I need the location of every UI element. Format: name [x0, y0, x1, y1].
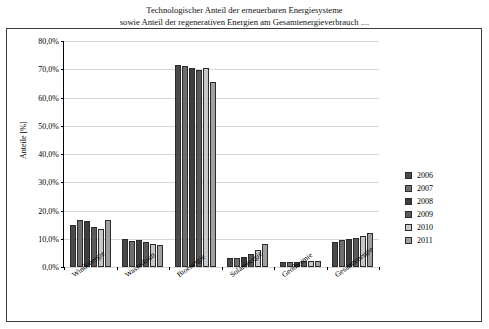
bar — [70, 225, 76, 267]
legend-item: 2008 — [405, 195, 433, 208]
bar — [105, 220, 111, 267]
bar — [182, 66, 188, 267]
bar-group — [117, 41, 170, 267]
y-tick-label: 70,0% — [38, 65, 59, 74]
bar — [122, 239, 128, 267]
x-tick-mark — [117, 267, 118, 270]
legend-item: 2009 — [405, 208, 433, 221]
legend-label: 2007 — [417, 184, 433, 193]
legend-label: 2006 — [417, 171, 433, 180]
legend-label: 2010 — [417, 223, 433, 232]
chart-title: Technologischer Anteil der erneuerbaren … — [0, 4, 489, 28]
x-tick-mark — [327, 267, 328, 270]
x-tick-mark — [64, 267, 65, 270]
legend-swatch — [405, 172, 412, 179]
bar-group — [327, 41, 380, 267]
bar — [203, 68, 209, 267]
legend-swatch — [405, 237, 412, 244]
legend-swatch — [405, 198, 412, 205]
chart-legend: 200620072008200920102011 — [405, 169, 433, 247]
bar-group — [64, 41, 117, 267]
legend-item: 2006 — [405, 169, 433, 182]
bar — [189, 68, 195, 267]
y-tick-label: 10,0% — [38, 234, 59, 243]
bar — [332, 242, 338, 267]
x-tick-mark — [169, 267, 170, 270]
x-tick-mark — [222, 267, 223, 270]
chart-frame: Anteile [%] 0,0%10,0%20,0%30,0%40,0%50,0… — [6, 28, 482, 322]
bar — [77, 220, 83, 267]
y-tick-label: 0,0% — [42, 263, 59, 272]
y-tick-label: 40,0% — [38, 150, 59, 159]
y-axis-title: Anteile [%] — [19, 121, 28, 159]
y-tick-label: 80,0% — [38, 37, 59, 46]
bar — [196, 70, 202, 267]
y-tick-label: 20,0% — [38, 206, 59, 215]
legend-item: 2011 — [405, 234, 433, 247]
bar — [308, 261, 314, 267]
bar-groups — [64, 41, 379, 267]
plot-area: 0,0%10,0%20,0%30,0%40,0%50,0%60,0%70,0%8… — [63, 41, 379, 268]
chart-title-line-2: sowie Anteil der regenerativen Energien … — [0, 16, 489, 28]
y-tick-label: 60,0% — [38, 93, 59, 102]
legend-item: 2007 — [405, 182, 433, 195]
legend-swatch — [405, 185, 412, 192]
legend-label: 2008 — [417, 197, 433, 206]
legend-swatch — [405, 211, 412, 218]
y-tick-label: 30,0% — [38, 178, 59, 187]
bar-group — [169, 41, 222, 267]
x-tick-mark — [274, 267, 275, 270]
legend-label: 2009 — [417, 210, 433, 219]
bar-group — [274, 41, 327, 267]
chart-page: Technologischer Anteil der erneuerbaren … — [0, 0, 489, 329]
bar-group — [222, 41, 275, 267]
bar — [157, 245, 163, 267]
chart-title-line-1: Technologischer Anteil der erneuerbaren … — [0, 4, 489, 16]
legend-swatch — [405, 224, 412, 231]
legend-label: 2011 — [417, 236, 433, 245]
bar — [175, 65, 181, 267]
bar — [227, 258, 233, 267]
bar — [280, 262, 286, 267]
x-tick-mark — [379, 267, 380, 270]
y-tick-label: 50,0% — [38, 121, 59, 130]
legend-item: 2010 — [405, 221, 433, 234]
bar — [315, 261, 321, 267]
bar — [210, 82, 216, 267]
